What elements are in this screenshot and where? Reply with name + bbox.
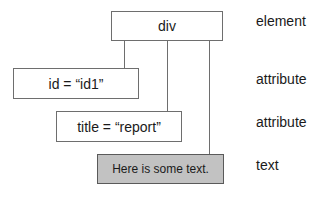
attribute-node-title: title = “report” — [56, 111, 182, 142]
legend-label-text: text — [256, 157, 279, 173]
text-node-label: Here is some text. — [112, 162, 209, 176]
attribute-node-title-label: title = “report” — [77, 119, 161, 135]
legend-label-attribute-2: attribute — [256, 114, 307, 130]
element-node-div: div — [111, 11, 223, 41]
text-node: Here is some text. — [97, 154, 224, 184]
attribute-node-id-label: id = “id1” — [49, 76, 104, 92]
attribute-node-id: id = “id1” — [13, 68, 139, 99]
legend-label-attribute-1: attribute — [256, 71, 307, 87]
edge-div-to-id — [124, 40, 125, 68]
edge-div-to-text — [209, 40, 210, 154]
element-node-label: div — [158, 18, 176, 34]
legend-label-element: element — [256, 13, 306, 29]
edge-div-to-title — [167, 40, 168, 111]
